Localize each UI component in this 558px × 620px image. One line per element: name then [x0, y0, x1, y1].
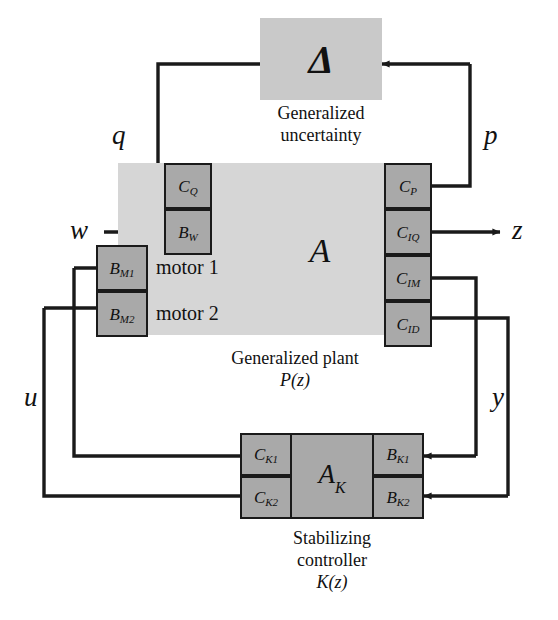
plant-input-cq-label: CQ [178, 178, 197, 195]
block-diagram-canvas: up and right then left-arrow into Delta … [0, 0, 558, 620]
plant-output-cp-label: CP [399, 178, 417, 195]
plant-output-ciq[interactable]: CIQ [384, 209, 432, 255]
controller-input-bk1-label: BK1 [386, 446, 409, 463]
plant-input-bm2-label: BM2 [109, 306, 134, 323]
signal-label-w: w [70, 215, 88, 246]
plant-core-symbol: A [310, 232, 331, 269]
signal-label-p: p [484, 120, 498, 151]
plant-output-cim-label: CIM [396, 270, 420, 287]
plant-input-cq[interactable]: CQ [164, 163, 212, 209]
plant-annotation-motor2: motor 2 [156, 302, 219, 325]
plant-output-cid[interactable]: CID [384, 301, 432, 347]
plant-caption-line1: Generalized plant [195, 348, 395, 369]
plant-input-bm2[interactable]: BM2 [96, 291, 148, 337]
plant-output-ciq-label: CIQ [397, 224, 420, 241]
plant-input-bw[interactable]: BW [164, 209, 212, 255]
controller-caption-line1: Stabilizing [242, 528, 422, 549]
uncertainty-caption-line1: Generalized [241, 103, 401, 124]
controller-caption-line2: controller [242, 550, 422, 571]
plant-core-label-wrap: A [270, 232, 370, 270]
signal-label-y: y [492, 382, 504, 413]
controller-output-ck2-label: CK2 [254, 489, 278, 506]
plant-output-cid-label: CID [397, 316, 420, 333]
controller-caption-line3: K(z) [242, 572, 422, 593]
controller-output-ck1[interactable]: CK1 [240, 433, 292, 476]
plant-caption-line2: P(z) [195, 370, 395, 391]
signal-label-u: u [24, 382, 38, 413]
plant-annotation-motor1: motor 1 [156, 256, 219, 279]
controller-input-bk2-label: BK2 [386, 489, 409, 506]
uncertainty-block[interactable]: Δ [260, 18, 382, 100]
controller-output-ck2[interactable]: CK2 [240, 476, 292, 519]
controller-output-ck1-label: CK1 [254, 446, 278, 463]
plant-input-bm1-label: BM1 [109, 260, 134, 277]
uncertainty-caption-line2: uncertainty [241, 125, 401, 146]
plant-output-cim[interactable]: CIM [384, 255, 432, 301]
controller-core-symbol: AK [318, 459, 345, 493]
controller-input-bk2[interactable]: BK2 [372, 476, 424, 519]
wire-p [432, 64, 470, 186]
controller-input-bk1[interactable]: BK1 [372, 433, 424, 476]
signal-label-z: z [512, 215, 523, 246]
plant-input-bm1[interactable]: BM1 [96, 245, 148, 291]
plant-input-bw-label: BW [178, 224, 198, 241]
wire-y1 [432, 278, 476, 456]
plant-output-cp[interactable]: CP [384, 163, 432, 209]
signal-label-q: q [112, 120, 126, 151]
uncertainty-symbol: Δ [308, 36, 333, 83]
